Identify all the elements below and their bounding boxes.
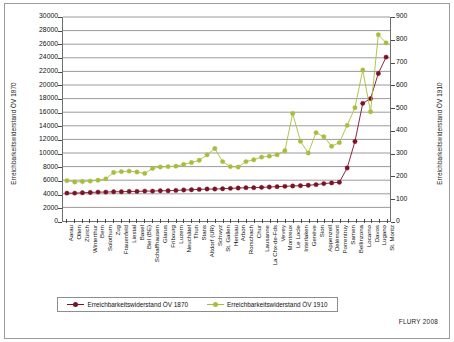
x-tick-mark bbox=[364, 219, 365, 223]
x-tick-mark bbox=[348, 219, 349, 223]
x-axis-label: Vevey bbox=[280, 225, 286, 242]
x-axis-label: Frauenfeld bbox=[123, 225, 129, 254]
legend-label-1870: Erreichbarkeitswiderstand ÖV 1870 bbox=[87, 301, 188, 308]
x-tick-mark bbox=[97, 219, 98, 223]
x-axis-label: Appenzell bbox=[327, 225, 333, 252]
x-axis-label: Locarno bbox=[366, 225, 372, 247]
chart-legend: Erreichbarkeitswiderstand ÖV 1870 Erreic… bbox=[57, 297, 338, 312]
x-axis-label: Liestal bbox=[131, 225, 137, 243]
x-axis-label: La Chx-de-Fds bbox=[272, 225, 278, 265]
x-axis-label: Schaffhausen bbox=[154, 225, 160, 262]
left-tick-label: 8000 bbox=[0, 164, 58, 171]
x-tick-mark bbox=[285, 219, 286, 223]
x-axis-label: St. Gallen bbox=[225, 225, 231, 252]
right-tick-mark bbox=[391, 40, 395, 41]
figure-credit: FLURY 2008 bbox=[399, 318, 438, 325]
x-axis-label: Luzern bbox=[178, 225, 184, 244]
x-tick-mark bbox=[215, 219, 216, 223]
x-axis-label: Lugano bbox=[381, 225, 387, 245]
right-tick-label: 900 bbox=[396, 13, 454, 20]
x-axis-label: Zug bbox=[115, 225, 121, 236]
x-tick-mark bbox=[324, 219, 325, 223]
x-axis-label: Glarus bbox=[162, 225, 168, 243]
right-tick-mark bbox=[391, 17, 395, 18]
x-axis-label: Schwyz bbox=[217, 225, 223, 246]
left-tick-label: 2000 bbox=[0, 205, 58, 212]
x-tick-mark bbox=[270, 219, 271, 223]
x-tick-mark bbox=[277, 219, 278, 223]
x-axis-label: Neuchâtel bbox=[186, 225, 192, 252]
left-tick-label: 12000 bbox=[0, 136, 58, 143]
left-tick-label: 18000 bbox=[0, 95, 58, 102]
x-axis-label: Arbon bbox=[240, 225, 246, 241]
left-tick-label: 16000 bbox=[0, 109, 58, 116]
plot-area bbox=[62, 17, 391, 222]
left-tick-label: 6000 bbox=[0, 177, 58, 184]
left-tick-label: 22000 bbox=[0, 68, 58, 75]
x-axis-label: St. Moritz bbox=[389, 225, 395, 251]
x-tick-mark bbox=[262, 219, 263, 223]
x-axis-label: Bellinzona bbox=[358, 225, 364, 253]
left-tick-label: 10000 bbox=[0, 150, 58, 157]
right-tick-label: 700 bbox=[396, 59, 454, 66]
right-tick-label: 600 bbox=[396, 82, 454, 89]
legend-marker-1870 bbox=[67, 301, 84, 308]
x-axis-label: Chur bbox=[256, 225, 262, 238]
x-axis-label: Montreux bbox=[287, 225, 293, 250]
x-tick-mark bbox=[105, 219, 106, 223]
x-axis-label: Olten bbox=[76, 225, 82, 240]
left-tick-label: 0 bbox=[0, 218, 58, 225]
x-tick-mark bbox=[387, 219, 388, 223]
x-tick-mark bbox=[293, 219, 294, 223]
x-axis-label: Lausanne bbox=[264, 225, 270, 252]
x-axis-label: Bern bbox=[99, 225, 105, 238]
right-tick-mark bbox=[391, 176, 395, 177]
right-tick-mark bbox=[391, 222, 395, 223]
x-tick-mark bbox=[89, 219, 90, 223]
right-tick-label: 400 bbox=[396, 127, 454, 134]
x-axis-label: Herisau bbox=[233, 225, 239, 246]
legend-item-1910: Erreichbarkeitswiderstand ÖV 1910 bbox=[207, 301, 328, 308]
right-tick-label: 800 bbox=[396, 36, 454, 43]
x-tick-mark bbox=[230, 219, 231, 223]
x-axis-label: Biel (BE) bbox=[146, 225, 152, 249]
left-tick-label: 28000 bbox=[0, 27, 58, 34]
x-axis-label: Rorschach bbox=[248, 225, 254, 254]
x-axis-label: Fribourg bbox=[170, 225, 176, 248]
x-tick-mark bbox=[66, 219, 67, 223]
legend-marker-1910 bbox=[207, 301, 224, 308]
x-tick-mark bbox=[160, 219, 161, 223]
right-tick-label: 0 bbox=[396, 218, 454, 225]
right-tick-mark bbox=[391, 108, 395, 109]
x-axis-label: Aarau bbox=[68, 225, 74, 241]
left-tick-label: 4000 bbox=[0, 191, 58, 198]
x-axis-label: Zürich bbox=[84, 225, 90, 242]
x-tick-mark bbox=[168, 219, 169, 223]
x-tick-mark bbox=[82, 219, 83, 223]
x-tick-mark bbox=[183, 219, 184, 223]
x-tick-mark bbox=[74, 219, 75, 223]
x-axis-label: Porrentruy bbox=[342, 225, 348, 253]
x-tick-mark bbox=[207, 219, 208, 223]
right-tick-mark bbox=[391, 63, 395, 64]
x-tick-mark bbox=[223, 219, 224, 223]
x-tick-mark bbox=[199, 219, 200, 223]
right-tick-mark bbox=[391, 154, 395, 155]
x-tick-mark bbox=[301, 219, 302, 223]
x-tick-mark bbox=[121, 219, 122, 223]
right-tick-mark bbox=[391, 131, 395, 132]
data-series-layer bbox=[63, 17, 390, 221]
left-tick-label: 20000 bbox=[0, 82, 58, 89]
x-tick-mark bbox=[371, 219, 372, 223]
right-tick-label: 300 bbox=[396, 150, 454, 157]
x-tick-mark bbox=[113, 219, 114, 223]
x-tick-mark bbox=[144, 219, 145, 223]
x-axis-label: Solothurn bbox=[107, 225, 113, 251]
x-axis-label: Le Locle bbox=[295, 225, 301, 248]
x-tick-mark bbox=[129, 219, 130, 223]
legend-item-1870: Erreichbarkeitswiderstand ÖV 1870 bbox=[67, 301, 188, 308]
x-axis-labels: AarauOltenZürichWinterthurBernSolothurnZ… bbox=[62, 223, 391, 291]
x-axis-label: Davos bbox=[374, 225, 380, 242]
x-tick-mark bbox=[309, 219, 310, 223]
left-tick-label: 26000 bbox=[0, 41, 58, 48]
